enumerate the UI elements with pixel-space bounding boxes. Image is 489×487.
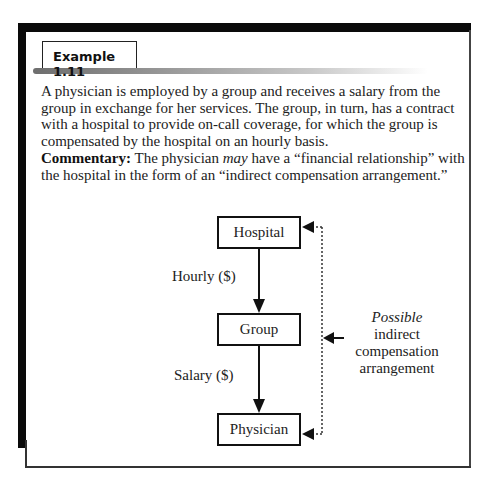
possible-line-1: indirect bbox=[374, 326, 420, 342]
salary-edge-label: Salary ($) bbox=[174, 367, 234, 384]
possible-arrangement-label: Possible indirect compensation arrangeme… bbox=[352, 309, 442, 377]
possible-emphasis: Possible bbox=[372, 309, 423, 325]
possible-line-2: compensation bbox=[355, 343, 438, 359]
hospital-node: Hospital bbox=[217, 216, 301, 249]
possible-line-3: arrangement bbox=[360, 360, 435, 376]
group-node: Group bbox=[217, 313, 301, 346]
physician-node: Physician bbox=[217, 413, 301, 446]
hourly-edge-label: Hourly ($) bbox=[172, 268, 236, 285]
example-heading: Example 1.11 bbox=[42, 41, 137, 68]
